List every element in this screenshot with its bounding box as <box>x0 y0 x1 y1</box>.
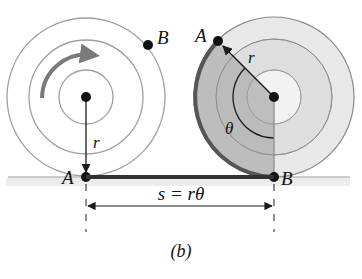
left-point-b-label: B <box>157 27 169 48</box>
right-point-a <box>213 36 223 46</box>
rolling-wheel-diagram: r B A r θ A B s = rθ (b) <box>0 0 362 279</box>
right-wheel: r θ A B <box>193 17 354 189</box>
left-point-a-label: A <box>60 167 74 188</box>
theta-label: θ <box>225 119 233 138</box>
right-point-a-label: A <box>193 25 207 46</box>
right-center-point <box>269 92 279 102</box>
rotation-arrow-icon <box>42 55 92 98</box>
dimension-label: s = rθ <box>158 183 204 204</box>
left-radius-label: r <box>93 133 100 152</box>
left-point-b <box>143 40 153 50</box>
left-wheel: r B A <box>7 18 169 188</box>
right-radius-label: r <box>248 48 255 67</box>
left-center-point <box>81 92 91 102</box>
right-point-b-label: B <box>281 168 293 189</box>
figure-caption: (b) <box>171 241 192 262</box>
